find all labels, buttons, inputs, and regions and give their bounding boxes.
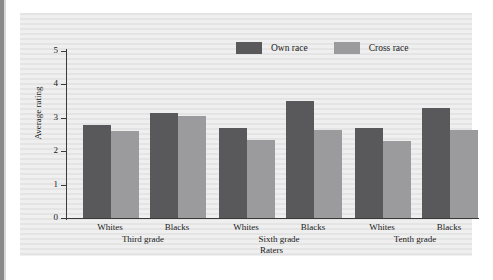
x-axis-title: Raters <box>66 245 477 255</box>
x-cat-label-sixth-blacks: Blacks <box>284 222 342 232</box>
bar-cross-tenth-blacks <box>450 130 478 219</box>
y-axis-title: Average rating <box>33 68 43 158</box>
bar-cross-third-blacks <box>178 116 206 218</box>
bar-own-third-whites <box>83 125 111 219</box>
x-cat-label-third-whites: Whites <box>81 222 139 232</box>
page-edge-inner-decoration <box>4 0 6 280</box>
x-cat-label-third-blacks: Blacks <box>148 222 206 232</box>
bar-cross-tenth-whites <box>383 141 411 218</box>
bar-own-tenth-blacks <box>422 108 450 218</box>
chart-panel: Own race Cross race 5 4 3 2 <box>20 13 472 256</box>
x-group-label-sixth-grade: Sixth grade <box>228 234 330 244</box>
y-tick-label-0-wrap: 0 <box>38 213 58 222</box>
bar-own-sixth-blacks <box>286 101 314 218</box>
y-tick-0 <box>61 218 67 219</box>
bar-own-sixth-whites <box>219 128 247 218</box>
x-cat-label-sixth-whites: Whites <box>217 222 275 232</box>
bar-cross-sixth-whites <box>247 140 275 219</box>
y-tick-label-0: 0 <box>42 213 58 222</box>
y-tick-label-5: 5 <box>42 46 58 55</box>
y-tick-label-1: 1 <box>42 180 58 189</box>
figure-container: Own race Cross race 5 4 3 2 <box>0 0 493 280</box>
bar-own-third-blacks <box>150 113 178 218</box>
x-group-label-third-grade: Third grade <box>92 234 194 244</box>
y-tick-label-2: 2 <box>42 146 58 155</box>
x-cat-label-tenth-blacks: Blacks <box>420 222 478 232</box>
bar-cross-sixth-blacks <box>314 130 342 219</box>
x-axis-line <box>66 218 479 219</box>
y-tick-label-1-wrap: 1 <box>38 180 58 189</box>
x-cat-label-tenth-whites: Whites <box>353 222 411 232</box>
bar-own-tenth-whites <box>355 128 383 218</box>
bar-cross-third-whites <box>111 131 139 218</box>
plot-area <box>66 51 477 218</box>
y-tick-label-5-wrap: 5 <box>38 46 58 55</box>
y-tick-label-4: 4 <box>42 79 58 88</box>
y-tick-label-3: 3 <box>42 113 58 122</box>
x-group-label-tenth-grade: Tenth grade <box>364 234 466 244</box>
